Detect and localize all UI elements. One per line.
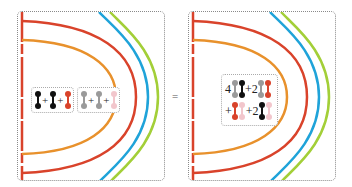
plus-sign: + — [42, 94, 48, 106]
molecule-sum-light: + + — [77, 87, 120, 113]
right-panel: 4 +2 + +2 — [188, 11, 336, 181]
dumbbell-red-icon — [232, 102, 238, 120]
expansion-row-2: + +2 — [225, 100, 273, 122]
plus-sign: + — [103, 94, 109, 106]
coefficient: +2 — [246, 104, 259, 119]
dumbbell-pink-icon — [111, 91, 117, 109]
plus-sign: + — [225, 104, 232, 119]
equals-sign: = — [172, 90, 178, 102]
dumbbell-black-icon — [50, 91, 56, 109]
dumbbell-gray-icon — [232, 80, 238, 98]
dumbbell-black-icon — [259, 102, 265, 120]
coefficient: +2 — [245, 82, 258, 97]
dumbbell-black-icon — [35, 91, 41, 109]
dumbbell-red-icon — [65, 91, 71, 109]
dumbbell-gray-icon — [258, 80, 264, 98]
dumbbell-black-icon — [239, 80, 245, 98]
plus-sign: + — [57, 94, 63, 106]
expansion-row-1: 4 +2 — [225, 78, 272, 100]
dumbbell-gray-icon — [96, 91, 102, 109]
molecule-expansion: 4 +2 + +2 — [221, 74, 278, 126]
molecule-sum-dark: + + — [31, 87, 74, 113]
dumbbell-pink-icon — [266, 102, 272, 120]
dumbbell-gray-icon — [81, 91, 87, 109]
dumbbell-pink-icon — [239, 102, 245, 120]
dumbbell-red-icon — [265, 80, 271, 98]
plus-sign: + — [88, 94, 94, 106]
coefficient: 4 — [225, 82, 231, 97]
left-panel: + + + + — [17, 11, 165, 181]
